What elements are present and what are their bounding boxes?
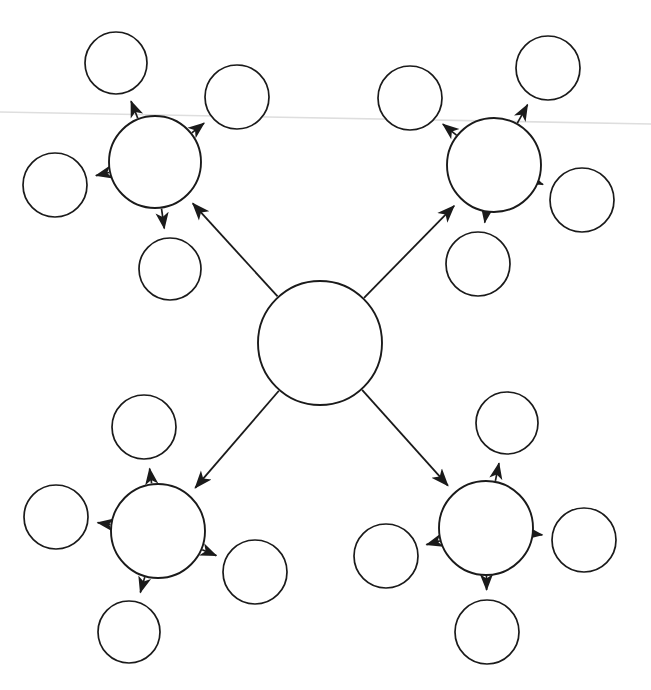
edge-tl-down	[162, 209, 165, 229]
node-leaf-tr-right[interactable]	[550, 168, 614, 232]
edge-bl-right	[202, 550, 216, 556]
edge-bl-down	[140, 577, 144, 592]
node-leaf-bl-right[interactable]	[223, 540, 287, 604]
scan-fold-line-artifact	[0, 112, 651, 124]
node-leaf-br-right[interactable]	[552, 508, 616, 572]
edge-br-up	[495, 463, 499, 481]
edge-tl-left	[96, 173, 109, 176]
edge-center-bl	[195, 391, 279, 488]
edge-br-right	[534, 534, 543, 535]
network-diagram-canvas	[0, 0, 651, 690]
node-hub-top-left[interactable]	[109, 116, 201, 208]
node-leaf-tl-left[interactable]	[23, 153, 87, 217]
node-center[interactable]	[258, 281, 382, 405]
node-leaf-bl-left[interactable]	[24, 485, 88, 549]
node-leaf-br-left[interactable]	[354, 524, 418, 588]
node-leaf-tr-left[interactable]	[378, 66, 442, 130]
network-diagram-svg	[0, 0, 651, 690]
edge-tl-up	[131, 101, 138, 118]
node-leaf-tr-up[interactable]	[516, 36, 580, 100]
node-leaf-br-down[interactable]	[455, 600, 519, 664]
edge-tr-left	[443, 124, 457, 135]
node-leaf-br-up[interactable]	[476, 392, 538, 454]
node-leaf-bl-down[interactable]	[98, 601, 160, 663]
node-leaf-tr-down[interactable]	[446, 232, 510, 296]
edge-tr-right	[539, 183, 543, 185]
edge-tr-down	[485, 212, 487, 222]
scan-artifact-layer	[0, 112, 651, 124]
node-hub-top-right[interactable]	[447, 118, 541, 212]
node-layer	[23, 32, 616, 664]
edge-center-br	[362, 390, 448, 486]
node-leaf-tl-up[interactable]	[85, 32, 147, 94]
node-leaf-bl-up[interactable]	[112, 395, 176, 459]
edge-tr-up	[517, 105, 527, 123]
edge-tl-right	[192, 123, 204, 133]
edge-center-tl	[193, 203, 278, 296]
node-leaf-tl-down[interactable]	[139, 238, 201, 300]
edge-center-tr	[364, 206, 454, 298]
node-leaf-tl-right[interactable]	[205, 65, 269, 129]
node-hub-bottom-left[interactable]	[111, 484, 205, 578]
edge-br-left	[426, 541, 439, 545]
edge-bl-left	[98, 523, 111, 525]
edge-bl-up	[150, 469, 152, 484]
node-hub-bottom-right[interactable]	[439, 481, 533, 575]
